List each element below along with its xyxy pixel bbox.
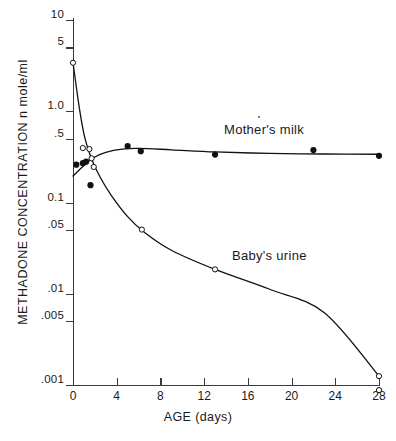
- stray-ink-speck: [258, 116, 260, 118]
- data-point-babys-urine: [376, 374, 381, 379]
- data-point-mothers-milk: [212, 151, 218, 157]
- series-curve-babys-urine: [73, 63, 379, 376]
- plot-area: [0, 0, 396, 441]
- data-point-mothers-milk: [125, 143, 131, 149]
- data-point-mothers-milk: [73, 162, 79, 168]
- series-markers: [70, 60, 382, 393]
- series-label-mothers-milk: Mother's milk: [224, 122, 304, 137]
- chart-container: 1051.0.50.1.05.01.005.001 0481216202428 …: [0, 0, 396, 441]
- data-point-mothers-milk: [376, 153, 382, 159]
- data-point-babys-urine: [376, 387, 381, 392]
- data-point-mothers-milk: [87, 182, 93, 188]
- data-point-babys-urine: [212, 267, 217, 272]
- data-point-mothers-milk: [310, 147, 316, 153]
- data-point-babys-urine: [89, 156, 94, 161]
- data-point-babys-urine: [70, 60, 75, 65]
- series-label-babys-urine: Baby's urine: [232, 248, 307, 263]
- series-curves: [73, 63, 379, 376]
- data-point-babys-urine: [139, 227, 144, 232]
- data-point-babys-urine: [91, 164, 96, 169]
- data-point-mothers-milk: [138, 148, 144, 154]
- y-axis-title: METHADONE CONCENTRATION n mole/ml: [16, 27, 30, 357]
- series-curve-mothers-milk: [73, 148, 379, 176]
- x-axis-title: AGE (days): [0, 410, 396, 424]
- data-point-mothers-milk: [83, 159, 89, 165]
- data-point-babys-urine: [80, 145, 85, 150]
- data-point-babys-urine: [87, 146, 92, 151]
